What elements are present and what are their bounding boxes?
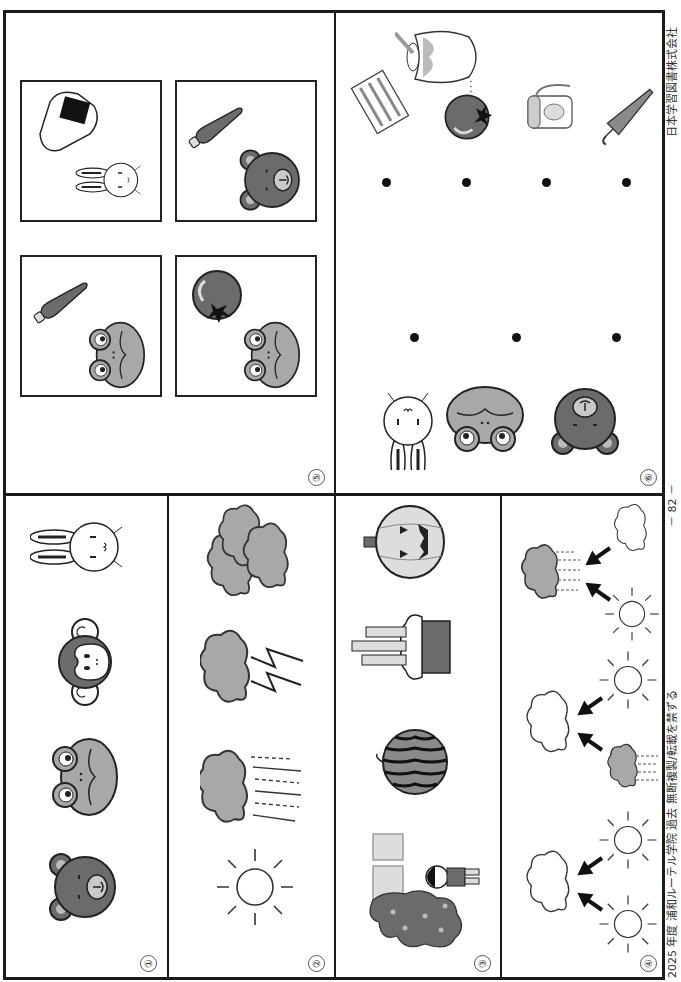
pair-box-frog-carrot[interactable] [20, 255, 162, 397]
match-dot-frog[interactable] [512, 333, 521, 342]
rabbit-icon [30, 502, 140, 592]
footer-copyright: 2025 年度 浦和ルーテル学院 過去 無断複製/転載を禁ずる [665, 690, 681, 978]
page-number: － 82 － [665, 484, 681, 527]
section-marker-1: ① [140, 955, 157, 972]
divider-3-4 [500, 494, 502, 980]
match-dot-rabbit[interactable] [410, 333, 419, 342]
match-dot-tomato[interactable] [462, 178, 471, 187]
tomato-icon [432, 82, 502, 152]
divider-2-3 [334, 494, 336, 980]
bear-icon [540, 374, 630, 464]
rain-cloud-icon [200, 722, 310, 832]
clouds-icon [200, 492, 310, 602]
weather-change-group-1 [510, 802, 660, 962]
thunder-cloud-icon [200, 602, 310, 712]
weather-change-group-3 [510, 492, 660, 652]
pair-box-frog-tomato[interactable] [175, 255, 317, 397]
kadomatsu-icon [350, 597, 470, 697]
match-dot-umbrella[interactable] [622, 178, 631, 187]
match-dot-bear[interactable] [612, 333, 621, 342]
sun-icon [210, 842, 300, 932]
weather-change-group-2 [510, 642, 660, 802]
umbrella-icon [590, 72, 670, 152]
pair-box-bear-carrot[interactable] [175, 80, 317, 222]
watermelon-icon [370, 717, 460, 807]
bear-icon [40, 842, 130, 932]
pair-box-rabbit-riceball[interactable] [20, 80, 162, 222]
frog-icon [440, 374, 530, 464]
jack-o-lantern-icon [360, 497, 460, 587]
divider-1-2 [167, 494, 169, 980]
section-marker-3: ③ [474, 955, 491, 972]
footer-publisher: 日本学習図書株式会社 [665, 27, 681, 137]
section-marker-5: ⑤ [308, 469, 325, 486]
section-marker-6: ⑥ [640, 469, 657, 486]
divider-5-6 [334, 10, 336, 495]
monkey-icon [40, 617, 130, 707]
match-dot-towel[interactable] [382, 178, 391, 187]
water-bottle-icon [520, 82, 580, 142]
frog-icon [40, 732, 130, 822]
cherry-blossom-school-icon [345, 822, 485, 952]
section-marker-2: ② [308, 955, 325, 972]
worksheet-page: ① ② ③ [0, 0, 681, 982]
match-dot-water-bottle[interactable] [542, 178, 551, 187]
